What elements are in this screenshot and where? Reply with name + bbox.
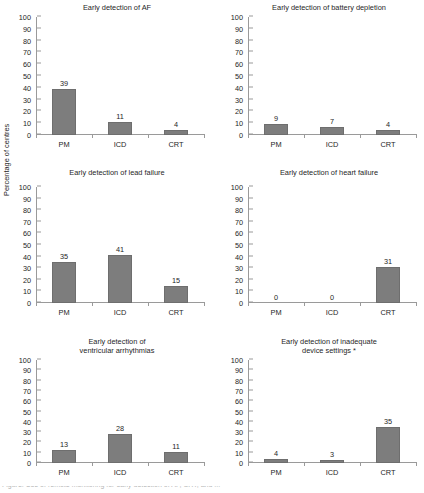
bar (164, 452, 188, 463)
bar-slot: 15CRT (148, 187, 204, 303)
y-tick-label: 70 (235, 48, 243, 57)
category-label: CRT (360, 308, 416, 317)
bar-value: 13 (36, 440, 92, 449)
y-tick-label: 100 (19, 13, 31, 22)
x-tick (204, 462, 205, 466)
y-tick-label: 80 (23, 36, 31, 45)
plot-area: 0102030405060708090100 13PM 28ICD 11CRT (36, 360, 204, 463)
y-tick-label: 30 (235, 264, 243, 273)
bar-value: 0 (304, 293, 360, 302)
category-label: CRT (148, 468, 204, 477)
bar-value: 4 (360, 120, 416, 129)
bar-slot: 0ICD (304, 187, 360, 303)
y-tick-label: 40 (235, 252, 243, 261)
y-tick-label: 60 (235, 397, 243, 406)
y-tick-label: 50 (23, 72, 31, 81)
bar-slot: 4CRT (148, 17, 204, 135)
bar-value: 4 (148, 120, 204, 129)
bar-value: 41 (92, 245, 148, 254)
y-tick-label: 30 (23, 264, 31, 273)
bar (264, 459, 288, 463)
bar-value: 3 (304, 450, 360, 459)
bar (108, 434, 132, 463)
y-tick-label: 0 (27, 459, 31, 468)
bar-value: 31 (360, 257, 416, 266)
bar (320, 127, 344, 135)
category-label: CRT (360, 468, 416, 477)
category-label: CRT (360, 140, 416, 149)
bar-value: 15 (148, 276, 204, 285)
x-tick (204, 134, 205, 138)
y-tick-label: 20 (235, 275, 243, 284)
x-tick (204, 302, 205, 306)
bar-slot: 7ICD (304, 17, 360, 135)
y-tick-label: 50 (23, 407, 31, 416)
y-tick-label: 60 (23, 60, 31, 69)
y-tick-label: 90 (23, 194, 31, 203)
plot-area: 0102030405060708090100 4PM 3ICD 35CRT (248, 360, 416, 463)
y-tick-label: 0 (27, 131, 31, 140)
y-tick-label: 20 (235, 438, 243, 447)
y-tick-label: 80 (235, 36, 243, 45)
bar-value: 35 (36, 252, 92, 261)
bar (264, 124, 288, 135)
y-tick-label: 100 (231, 183, 243, 192)
bar-slot: 0PM (248, 187, 304, 303)
plot-area: 0102030405060708090100 9PM 7ICD 4CRT (248, 17, 416, 135)
y-tick-label: 70 (23, 386, 31, 395)
y-tick-label: 80 (235, 376, 243, 385)
plot-area: 0102030405060708090100 39PM 11ICD 4CRT (36, 17, 204, 135)
clipped-caption: Figure. Use of remote monitoring for ear… (0, 486, 424, 493)
y-tick-label: 90 (235, 366, 243, 375)
y-tick-label: 10 (23, 119, 31, 128)
y-tick-label: 60 (23, 397, 31, 406)
bar (164, 286, 188, 303)
category-label: CRT (148, 140, 204, 149)
category-label: PM (248, 140, 304, 149)
bar-group: 4PM 3ICD 35CRT (248, 360, 416, 463)
category-label: CRT (148, 308, 204, 317)
y-tick-label: 10 (23, 287, 31, 296)
y-tick-label: 50 (235, 72, 243, 81)
y-tick-label: 90 (235, 194, 243, 203)
bar (164, 130, 188, 135)
category-label: ICD (92, 308, 148, 317)
bar (320, 460, 344, 463)
bar-group: 35PM 41ICD 15CRT (36, 187, 204, 303)
bar-value: 4 (248, 449, 304, 458)
y-tick-label: 0 (239, 131, 243, 140)
bar-value: 28 (92, 424, 148, 433)
category-label: PM (36, 468, 92, 477)
bar-slot: 28ICD (92, 360, 148, 463)
bar-slot: 11ICD (92, 17, 148, 135)
bar (376, 267, 400, 303)
bar-value: 9 (248, 114, 304, 123)
bar-slot: 4CRT (360, 17, 416, 135)
x-tick (416, 302, 417, 306)
y-tick-label: 40 (235, 83, 243, 92)
x-tick (416, 462, 417, 466)
y-tick-label: 30 (235, 428, 243, 437)
y-tick-label: 70 (23, 217, 31, 226)
y-tick-label: 40 (23, 83, 31, 92)
panel-title: Early detection of inadequate device set… (238, 337, 420, 356)
bar-group: 0PM 0ICD 31CRT (248, 187, 416, 303)
bar-slot: 13PM (36, 360, 92, 463)
y-tick-label: 0 (239, 299, 243, 308)
bar-value: 7 (304, 117, 360, 126)
bar-value: 35 (360, 417, 416, 426)
bar-slot: 9PM (248, 17, 304, 135)
category-label: ICD (304, 468, 360, 477)
y-tick-label: 10 (235, 287, 243, 296)
panel-title: Early detection of battery depletion (238, 3, 420, 12)
figure-bar-chart-panels: Percentage of centres Early detection of… (0, 0, 424, 493)
y-tick-label: 0 (27, 299, 31, 308)
y-tick-label: 70 (23, 48, 31, 57)
y-tick-label: 30 (235, 95, 243, 104)
bar (52, 450, 76, 463)
plot-area: 0102030405060708090100 35PM 41ICD 15CRT (36, 187, 204, 303)
bar (52, 89, 76, 135)
bar-slot: 39PM (36, 17, 92, 135)
y-tick-label: 40 (235, 417, 243, 426)
panel-title: Early detection of AF (26, 3, 208, 12)
